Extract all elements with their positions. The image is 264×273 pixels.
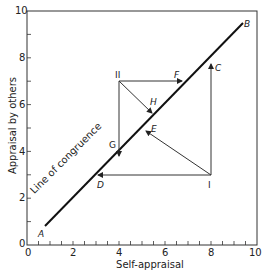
x-tick-8: 8 [208,248,214,258]
y-tick-10: 10 [15,6,28,16]
point-ii-label: II [115,70,120,80]
x-tick-10: 10 [249,248,262,258]
x-axis-label: Self-appraisal [100,259,200,270]
y-tick-6: 6 [19,100,25,110]
arrow-c-label: C [215,63,221,73]
arrow-e [146,131,211,175]
x-tick-4: 4 [116,248,122,258]
point-i-label: I [208,180,211,190]
y-tick-4: 4 [19,147,25,157]
line-of-congruence [45,23,243,226]
x-ticks [39,241,246,245]
y-axis-label: Appraisal by others [7,76,18,176]
x-tick-0: 0 [25,248,31,258]
arrow-d-label: D [97,180,104,190]
x-tick-6: 6 [162,248,168,258]
arrow-h [119,81,152,113]
point-a-label: A [38,229,44,239]
point-b-label: B [244,19,250,29]
arrow-h-label: H [150,97,157,107]
y-tick-2: 2 [19,193,25,203]
y-tick-8: 8 [19,53,25,63]
arrow-g-label: G [109,140,116,150]
arrow-e-label: E [151,124,157,134]
y-ticks [27,34,31,221]
arrow-f-label: F [174,70,179,80]
congruence-diagram: 10 8 6 4 2 0 0 2 4 6 8 10 Self-appraisal… [0,0,264,273]
x-tick-2: 2 [70,248,76,258]
